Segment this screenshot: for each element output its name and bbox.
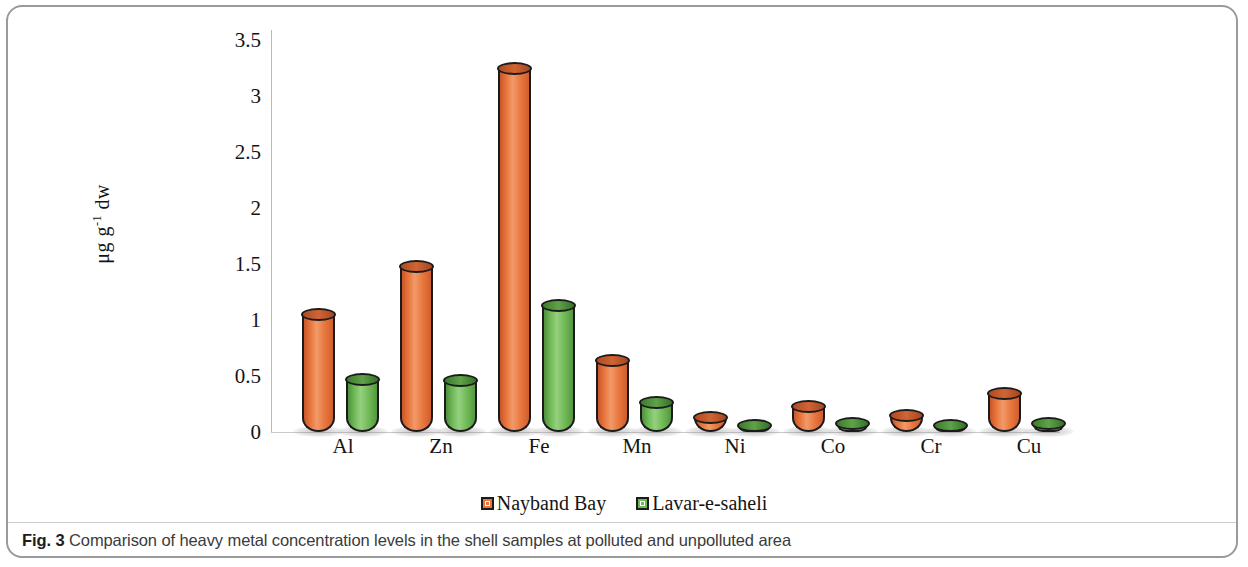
bar-group-cu: Cu: [980, 22, 1078, 432]
bar-mn-lavar-e-saheli: [640, 403, 673, 432]
cylinder-top-ellipse: [737, 419, 772, 432]
x-axis-label-ni: Ni: [686, 434, 784, 459]
bar-co-lavar-e-saheli: [836, 423, 869, 432]
y-axis-title: μg g-1 dw: [90, 114, 114, 334]
cylinder-body: [444, 380, 477, 432]
y-axis-tick-0-5: 0.5: [201, 364, 261, 389]
legend-swatch-icon: [481, 497, 494, 510]
x-axis-label-cu: Cu: [980, 434, 1078, 459]
bar-group-ni: Ni: [686, 22, 784, 432]
bar-cr-nayband-bay: [890, 415, 923, 432]
bar-ni-lavar-e-saheli: [738, 425, 771, 432]
x-axis-label-zn: Zn: [392, 434, 490, 459]
bar-cu-nayband-bay: [988, 394, 1021, 432]
cylinder-body: [346, 379, 379, 432]
cylinder-body: [400, 266, 433, 432]
bar-fe-lavar-e-saheli: [542, 305, 575, 432]
y-axis-tick-labels: 3.532.521.510.50: [195, 0, 261, 520]
x-axis-label-cr: Cr: [882, 434, 980, 459]
bar-cr-lavar-e-saheli: [934, 425, 967, 432]
x-axis-label-fe: Fe: [490, 434, 588, 459]
bar-group-fe: Fe: [490, 22, 588, 432]
bar-cu-lavar-e-saheli: [1032, 423, 1065, 432]
bar-group-zn: Zn: [392, 22, 490, 432]
y-axis-tick-3-5: 3.5: [201, 28, 261, 53]
legend-label: Lavar-e-saheli: [652, 492, 767, 515]
figure-caption-text: Comparison of heavy metal concentration …: [69, 531, 791, 549]
cylinder-top-ellipse: [301, 308, 336, 321]
cylinder-body: [302, 314, 335, 432]
cylinder-body: [596, 360, 629, 432]
y-axis-tick-1: 1: [201, 308, 261, 333]
figure-caption: Fig. 3 Comparison of heavy metal concent…: [22, 530, 1222, 551]
legend-swatch-icon: [636, 497, 649, 510]
bar-group-al: Al: [294, 22, 392, 432]
x-axis-label-mn: Mn: [588, 434, 686, 459]
y-axis-tick-3: 3: [201, 84, 261, 109]
legend-label: Nayband Bay: [497, 492, 606, 515]
bar-fe-nayband-bay: [498, 68, 531, 432]
cylinder-top-ellipse: [443, 374, 478, 387]
cylinder-body: [542, 305, 575, 432]
cylinder-top-ellipse: [541, 299, 576, 312]
plot-bars: AlZnFeMnNiCoCrCu: [272, 0, 1060, 520]
cylinder-body: [498, 68, 531, 432]
y-axis-title-suffix: dw: [91, 184, 113, 215]
bar-zn-lavar-e-saheli: [444, 380, 477, 432]
y-axis-tick-2: 2: [201, 196, 261, 221]
bar-al-nayband-bay: [302, 314, 335, 432]
bar-group-cr: Cr: [882, 22, 980, 432]
bar-al-lavar-e-saheli: [346, 379, 379, 432]
bar-zn-nayband-bay: [400, 266, 433, 432]
cylinder-top-ellipse: [791, 400, 826, 413]
bar-group-co: Co: [784, 22, 882, 432]
legend-item-nayband-bay: Nayband Bay: [481, 492, 606, 515]
cylinder-top-ellipse: [345, 373, 380, 386]
bar-mn-nayband-bay: [596, 360, 629, 432]
cylinder-top-ellipse: [889, 409, 924, 422]
cylinder-top-ellipse: [693, 411, 728, 424]
cylinder-top-ellipse: [835, 417, 870, 430]
bar-group-mn: Mn: [588, 22, 686, 432]
legend-item-lavar-e-saheli: Lavar-e-saheli: [636, 492, 767, 515]
bar-co-nayband-bay: [792, 406, 825, 432]
cylinder-top-ellipse: [1031, 417, 1066, 430]
chart-legend: Nayband BayLavar-e-saheli: [0, 492, 1248, 515]
y-axis-tick-1-5: 1.5: [201, 252, 261, 277]
cylinder-top-ellipse: [399, 260, 434, 273]
figure-page: μg g-1 dw 3.532.521.510.50 AlZnFeMnNiCoC…: [0, 0, 1248, 567]
x-axis-label-al: Al: [294, 434, 392, 459]
cylinder-top-ellipse: [595, 354, 630, 367]
y-axis-tick-0: 0: [201, 420, 261, 445]
cylinder-top-ellipse: [933, 419, 968, 432]
caption-divider: [8, 522, 1236, 523]
x-axis-label-co: Co: [784, 434, 882, 459]
chart-area: μg g-1 dw 3.532.521.510.50 AlZnFeMnNiCoC…: [0, 0, 1248, 520]
figure-caption-label: Fig. 3: [22, 531, 65, 549]
y-axis-title-exponent: -1: [90, 215, 104, 226]
y-axis-title-base: μg g: [91, 226, 113, 264]
cylinder-top-ellipse: [497, 62, 532, 75]
y-axis-tick-2-5: 2.5: [201, 140, 261, 165]
bar-ni-nayband-bay: [694, 417, 727, 432]
